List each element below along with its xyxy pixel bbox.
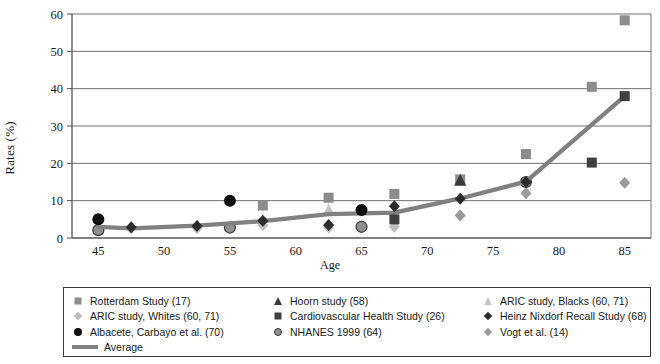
legend-label: Albacete, Carbayo et al. (70) [90, 327, 224, 338]
x-axis-tick-label: 80 [553, 244, 566, 258]
data-point-square [620, 91, 630, 101]
legend-marker-diamond-icon [482, 326, 494, 338]
data-point-diamond [126, 221, 137, 233]
data-point-circle [356, 204, 368, 216]
data-point-square [389, 189, 399, 199]
y-axis-tick-label: 60 [51, 8, 64, 22]
legend-marker-triangle-icon [272, 295, 284, 307]
legend-marker-triangle-icon [482, 295, 494, 307]
legend-item: Albacete, Carbayo et al. (70) [72, 324, 272, 340]
legend-marker-diamond-icon [482, 310, 494, 322]
legend-item: ARIC study, Whites (60, 71) [72, 309, 272, 325]
y-axis-tick-label: 40 [51, 82, 64, 96]
data-point-square [620, 15, 630, 25]
legend-item: NHANES 1999 (64) [272, 324, 482, 340]
data-point-diamond [192, 220, 203, 232]
y-axis-tick-label: 20 [51, 157, 64, 171]
legend-spacer [482, 340, 660, 356]
x-axis-tick-label: 60 [289, 244, 302, 258]
x-axis-tick-label: 65 [355, 244, 368, 258]
legend-marker-square-icon [272, 310, 284, 322]
legend-item: ARIC study, Blacks (60, 71) [482, 293, 660, 309]
data-point-circle-outline [356, 221, 367, 232]
legend-spacer [272, 340, 482, 356]
legend-item: Cardiovascular Health Study (26) [272, 309, 482, 325]
y-axis-tick-label: 0 [57, 232, 63, 246]
legend-marker-square-icon [72, 295, 84, 307]
legend-label: Vogt et al. (14) [500, 327, 568, 338]
y-axis-tick-label: 30 [51, 120, 64, 134]
data-point-diamond [455, 210, 466, 222]
x-axis-tick-label: 55 [224, 244, 237, 258]
legend-label: Average [104, 342, 143, 353]
x-axis-tick-label: 70 [421, 244, 434, 258]
legend-item: Heinz Nixdorf Recall Study (68) [482, 309, 660, 325]
legend-marker-circle-icon [72, 326, 84, 338]
y-axis-tick-label: 50 [51, 45, 64, 59]
data-point-square [521, 149, 531, 159]
data-point-square [389, 214, 399, 224]
data-point-square [258, 201, 268, 211]
data-point-square [587, 158, 597, 168]
legend: Rotterdam Study (17)Hoorn study (58)ARIC… [63, 287, 651, 357]
legend-marker-line-icon [72, 341, 98, 353]
x-axis-tick-label: 50 [158, 244, 171, 258]
legend-label: ARIC study, Whites (60, 71) [90, 311, 219, 322]
legend-item: Average [72, 340, 272, 356]
figure-container: Rates (%) 010203040506045505560657075808… [0, 0, 660, 364]
data-point-diamond [520, 187, 531, 199]
x-axis-tick-label: 85 [618, 244, 631, 258]
legend-label: ARIC study, Blacks (60, 71) [500, 296, 628, 307]
legend-label: Hoorn study (58) [290, 296, 368, 307]
x-axis-tick-label: 45 [92, 244, 105, 258]
data-point-diamond [619, 177, 630, 189]
data-point-square [324, 193, 334, 203]
legend-label: Heinz Nixdorf Recall Study (68) [500, 311, 646, 322]
scatter-plot-svg: 0102030405060455055606570758085 [0, 0, 660, 286]
x-axis-tick-label: 75 [487, 244, 500, 258]
legend-label: Cardiovascular Health Study (26) [290, 311, 445, 322]
legend-label: NHANES 1999 (64) [290, 327, 382, 338]
legend-item: Rotterdam Study (17) [72, 293, 272, 309]
legend-items: Rotterdam Study (17)Hoorn study (58)ARIC… [72, 293, 646, 355]
x-axis-title: Age [0, 258, 660, 273]
legend-label: Rotterdam Study (17) [90, 296, 190, 307]
legend-item: Hoorn study (58) [272, 293, 482, 309]
y-axis-tick-label: 10 [51, 194, 64, 208]
legend-item: Vogt et al. (14) [482, 324, 660, 340]
data-point-circle [92, 213, 104, 225]
legend-marker-circle-outline-icon [272, 326, 284, 338]
data-point-diamond [455, 193, 466, 205]
chart-plot-area: Rates (%) 010203040506045505560657075808… [0, 0, 660, 286]
data-point-circle [224, 195, 236, 207]
legend-marker-diamond-icon [72, 310, 84, 322]
data-point-square [587, 82, 597, 92]
